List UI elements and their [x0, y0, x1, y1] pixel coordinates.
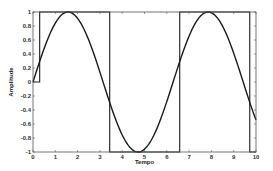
- plot-background: [33, 12, 256, 152]
- x-tick-label: 9: [232, 154, 236, 160]
- x-tick-label: 10: [253, 154, 260, 160]
- y-tick-label: -0.8: [21, 135, 32, 141]
- y-tick-label: -0.6: [21, 121, 32, 127]
- x-tick-label: 3: [98, 154, 102, 160]
- chart: 012345678910 -1-0.8-0.6-0.4-0.200.20.40.…: [0, 0, 273, 171]
- y-tick-label: -0.4: [21, 107, 32, 113]
- x-tick-label: 4: [121, 154, 125, 160]
- x-tick-label: 1: [54, 154, 58, 160]
- y-tick-label: 1: [28, 9, 32, 15]
- x-axis-label: Tempo: [135, 159, 155, 165]
- y-tick-label: -0.2: [21, 93, 32, 99]
- x-tick-label: 7: [187, 154, 191, 160]
- y-tick-label: 0.6: [23, 37, 32, 43]
- y-tick-label: 0.8: [23, 23, 32, 29]
- y-tick-label: 0: [28, 79, 32, 85]
- y-tick-label: -1: [26, 149, 32, 155]
- y-axis-label: Amplitude: [8, 67, 14, 97]
- y-tick-label: 0.4: [23, 51, 32, 57]
- x-tick-label: 2: [76, 154, 80, 160]
- x-tick-label: 6: [165, 154, 169, 160]
- x-tick-label: 8: [210, 154, 214, 160]
- y-tick-label: 0.2: [23, 65, 32, 71]
- x-tick-label: 0: [31, 154, 35, 160]
